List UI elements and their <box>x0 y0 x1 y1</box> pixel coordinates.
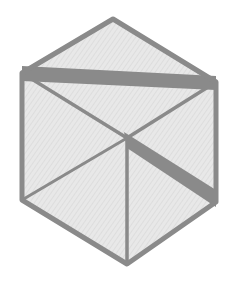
cube-diagram <box>0 0 235 284</box>
cube-svg <box>0 0 235 284</box>
